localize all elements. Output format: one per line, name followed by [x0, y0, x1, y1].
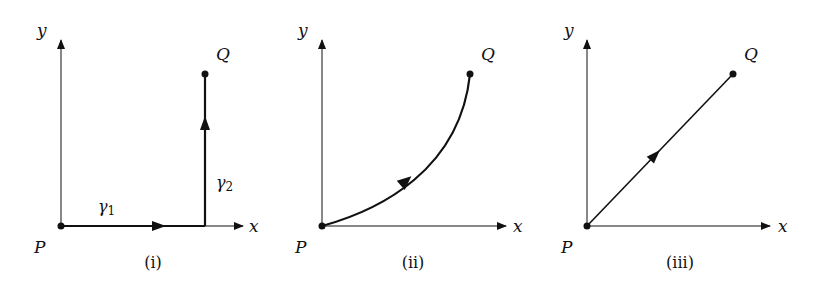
- point-p: [584, 223, 591, 230]
- panel-i: y x Q P γ1 γ2 (i): [33, 20, 259, 272]
- point-p: [58, 223, 65, 230]
- point-p-label: P: [560, 237, 573, 257]
- panel-caption: (ii): [402, 253, 425, 272]
- point-p-label: P: [294, 237, 307, 257]
- y-axis-label: y: [563, 20, 574, 40]
- point-p-label: P: [33, 237, 46, 257]
- y-axis-label: y: [297, 20, 308, 40]
- point-q: [467, 71, 474, 78]
- panel-caption: (iii): [666, 253, 694, 272]
- point-q: [202, 71, 209, 78]
- path-curve: [322, 74, 470, 226]
- point-q-label: Q: [744, 44, 758, 64]
- direction-arrow-icon: [200, 116, 210, 130]
- figure: y x Q P γ1 γ2 (i) y x Q P (ii) y x Q P (…: [0, 0, 820, 290]
- x-axis-label: x: [513, 216, 523, 236]
- x-axis-label: x: [249, 216, 259, 236]
- panel-iii: y x Q P (iii): [560, 20, 788, 272]
- panel-ii: y x Q P (ii): [294, 20, 523, 272]
- direction-arrow-icon: [152, 221, 166, 231]
- panel-caption: (i): [144, 253, 162, 272]
- x-axis-label: x: [778, 216, 788, 236]
- gamma1-label: γ1: [98, 197, 115, 218]
- y-axis-label: y: [36, 20, 47, 40]
- gamma2-label: γ2: [216, 173, 233, 194]
- point-q-label: Q: [481, 44, 495, 64]
- point-q: [730, 71, 737, 78]
- point-q-label: Q: [216, 44, 230, 64]
- point-p: [319, 223, 326, 230]
- path-straight: [587, 74, 733, 226]
